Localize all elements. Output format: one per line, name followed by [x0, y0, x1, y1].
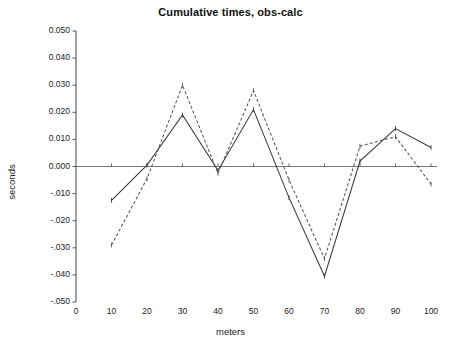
- x-axis-tick-label: 0: [61, 306, 91, 316]
- x-axis-tick-label: 80: [345, 306, 375, 316]
- series-line-series-dashed: [112, 85, 432, 258]
- x-axis-tick-label: 60: [274, 306, 304, 316]
- x-axis-tick-label: 90: [381, 306, 411, 316]
- x-axis-tick-label: 50: [239, 306, 269, 316]
- x-axis-tick-label: 100: [416, 306, 446, 316]
- x-axis-tick-label: 40: [203, 306, 233, 316]
- x-axis-tick-label: 10: [97, 306, 127, 316]
- x-axis-tick-label: 30: [168, 306, 198, 316]
- plot-area: [0, 0, 461, 350]
- chart-container: Cumulative times, obs-calc seconds meter…: [0, 0, 461, 350]
- x-axis-tick-label: 20: [132, 306, 162, 316]
- x-axis-tick-label: 70: [310, 306, 340, 316]
- data-series-group: [112, 83, 432, 279]
